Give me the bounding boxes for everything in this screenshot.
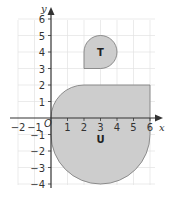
svg-text:−2: −2	[11, 122, 26, 133]
svg-text:6: 6	[147, 122, 153, 133]
shape-u-label: U	[96, 134, 104, 145]
svg-text:6: 6	[39, 14, 45, 25]
y-axis-arrow-icon	[48, 7, 55, 15]
svg-text:1: 1	[64, 122, 70, 133]
coordinate-grid-diagram: 6 5 4 3 2 1 −1 −2 −3 −4 −2 −1 1 2 3 4 5 …	[0, 0, 170, 200]
svg-text:−2: −2	[30, 146, 45, 157]
svg-text:−3: −3	[30, 163, 45, 174]
svg-text:2: 2	[39, 80, 45, 91]
shape-t-label: T	[97, 47, 104, 58]
svg-text:1: 1	[39, 97, 45, 108]
svg-text:5: 5	[130, 122, 136, 133]
svg-text:4: 4	[114, 122, 120, 133]
svg-text:3: 3	[39, 64, 45, 75]
svg-text:−1: −1	[27, 122, 42, 133]
svg-text:−4: −4	[30, 179, 45, 190]
y-axis-label: y	[40, 3, 47, 14]
svg-text:2: 2	[81, 122, 87, 133]
svg-text:3: 3	[97, 122, 103, 133]
x-axis-label: x	[159, 122, 165, 133]
x-axis-arrow-icon	[155, 115, 163, 122]
svg-text:4: 4	[39, 47, 45, 58]
svg-text:5: 5	[39, 31, 45, 42]
origin-label: O	[44, 118, 52, 129]
